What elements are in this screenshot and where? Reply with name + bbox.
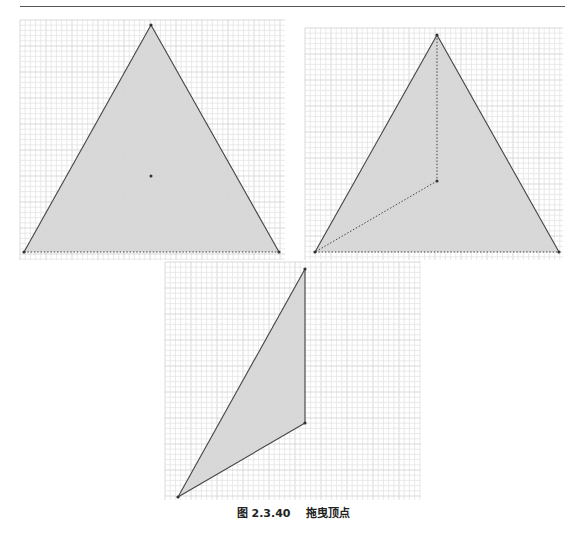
vertex-point bbox=[303, 421, 306, 424]
triangle-diagram-3 bbox=[0, 0, 587, 537]
vertex-point bbox=[303, 267, 306, 270]
figure-title: 拖曳顶点 bbox=[306, 507, 350, 520]
vertex-point bbox=[176, 495, 179, 498]
figure-dragged-vertex-triangle bbox=[0, 0, 587, 537]
figure-number: 图 2.3.40 bbox=[237, 507, 291, 520]
figure-caption: 图 2.3.40 拖曳顶点 bbox=[0, 504, 587, 520]
